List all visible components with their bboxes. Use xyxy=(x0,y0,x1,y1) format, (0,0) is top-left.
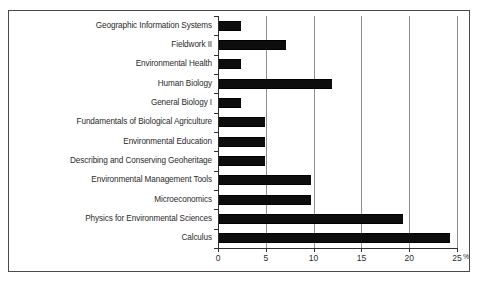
category-label: Physics for Environmental Sciences xyxy=(20,209,218,228)
y-axis-tick xyxy=(214,113,218,114)
x-axis-unit-label: % xyxy=(463,253,469,260)
category-label: Environmental Health xyxy=(20,55,218,74)
x-axis-tick xyxy=(409,248,410,252)
bar xyxy=(218,233,450,243)
bar-row xyxy=(218,113,457,132)
y-axis-tick xyxy=(214,229,218,230)
bar-row xyxy=(218,16,457,35)
x-axis-line xyxy=(218,248,457,249)
bar-row xyxy=(218,132,457,151)
category-label: Human Biology xyxy=(20,74,218,93)
x-axis-tick xyxy=(314,248,315,252)
x-axis-tick-labels: 0510152025 xyxy=(218,254,457,268)
y-axis-tick xyxy=(214,151,218,152)
y-axis-tick xyxy=(214,209,218,210)
bar-row xyxy=(218,190,457,209)
category-label: Geographic Information Systems xyxy=(20,16,218,35)
bar xyxy=(218,214,403,224)
category-label: Describing and Conserving Geoheritage xyxy=(20,151,218,170)
category-label: General Biology I xyxy=(20,93,218,112)
y-axis-tick xyxy=(214,190,218,191)
bar xyxy=(218,137,265,147)
bar xyxy=(218,175,311,185)
y-axis-tick xyxy=(214,93,218,94)
x-axis-tick-label: 5 xyxy=(263,254,268,263)
bar xyxy=(218,117,265,127)
category-label: Fundamentals of Biological Agriculture xyxy=(20,113,218,132)
bar-row xyxy=(218,35,457,54)
y-axis-tick xyxy=(214,74,218,75)
x-axis-tick-label: 15 xyxy=(357,254,366,263)
x-axis-tick-label: 20 xyxy=(404,254,413,263)
bar-row xyxy=(218,74,457,93)
bar-row xyxy=(218,93,457,112)
category-label: Calculus xyxy=(20,229,218,248)
bar xyxy=(218,59,241,69)
category-axis: Geographic Information Systems Fieldwork… xyxy=(20,16,218,248)
x-axis-tick xyxy=(361,248,362,252)
bar-row xyxy=(218,209,457,228)
y-axis-tick xyxy=(214,35,218,36)
y-axis-tick xyxy=(214,171,218,172)
y-axis-line xyxy=(218,16,219,248)
y-axis-tick xyxy=(214,132,218,133)
bar-row xyxy=(218,229,457,248)
bar-series xyxy=(218,16,457,248)
x-axis-tick xyxy=(457,248,458,252)
chart-plot-container: Geographic Information Systems Fieldwork… xyxy=(8,10,470,272)
x-axis-tick xyxy=(266,248,267,252)
bar-row xyxy=(218,151,457,170)
bar xyxy=(218,79,332,89)
bar xyxy=(218,21,241,31)
bar-row xyxy=(218,171,457,190)
y-axis-tick xyxy=(214,16,218,17)
bar xyxy=(218,98,241,108)
category-label: Microeconomics xyxy=(20,190,218,209)
plot-region xyxy=(218,16,457,248)
x-axis-tick-label: 10 xyxy=(309,254,318,263)
bar xyxy=(218,40,286,50)
gridline xyxy=(457,16,458,248)
x-axis-tick-label: 0 xyxy=(216,254,221,263)
category-label: Environmental Education xyxy=(20,132,218,151)
category-label: Environmental Management Tools xyxy=(20,171,218,190)
category-label: Fieldwork II xyxy=(20,35,218,54)
bar xyxy=(218,156,265,166)
bar-row xyxy=(218,55,457,74)
bar xyxy=(218,195,311,205)
chart-figure: Geographic Information Systems Fieldwork… xyxy=(0,0,479,281)
x-axis-tick-label: 25 xyxy=(452,254,461,263)
x-axis-tick xyxy=(218,248,219,252)
y-axis-tick xyxy=(214,55,218,56)
